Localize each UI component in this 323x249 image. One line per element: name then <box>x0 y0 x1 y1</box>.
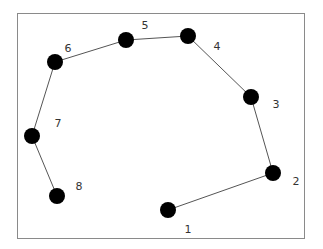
graph-canvas <box>0 0 323 249</box>
edge-2-3 <box>251 97 273 173</box>
node-8 <box>49 188 65 204</box>
node-label-6: 6 <box>65 43 72 54</box>
node-6 <box>47 54 63 70</box>
node-1 <box>160 202 176 218</box>
node-label-3: 3 <box>273 99 280 110</box>
node-label-5: 5 <box>142 20 149 31</box>
node-7 <box>24 128 40 144</box>
node-label-2: 2 <box>293 176 300 187</box>
edge-4-5 <box>126 36 188 40</box>
node-5 <box>118 32 134 48</box>
node-label-7: 7 <box>55 118 62 129</box>
node-label-8: 8 <box>76 181 83 192</box>
node-3 <box>243 89 259 105</box>
edge-7-8 <box>32 136 57 196</box>
node-label-4: 4 <box>214 41 221 52</box>
edge-6-7 <box>32 62 55 136</box>
node-2 <box>265 165 281 181</box>
node-label-1: 1 <box>185 224 192 235</box>
edge-1-2 <box>168 173 273 210</box>
node-4 <box>180 28 196 44</box>
